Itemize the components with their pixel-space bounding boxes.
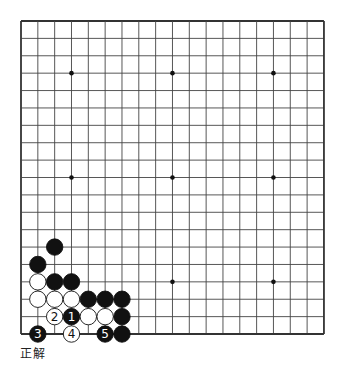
white-stone bbox=[46, 291, 62, 307]
black-stone: 5 bbox=[97, 326, 113, 342]
star-point bbox=[271, 71, 276, 76]
white-stone: 4 bbox=[63, 326, 79, 342]
black-stone bbox=[114, 291, 130, 307]
black-stone bbox=[30, 256, 46, 272]
white-stone: 2 bbox=[46, 308, 62, 324]
black-stone bbox=[80, 291, 96, 307]
black-stone bbox=[46, 274, 62, 290]
star-point bbox=[170, 175, 175, 180]
move-number: 3 bbox=[34, 327, 42, 341]
go-board: 21345 bbox=[0, 0, 344, 365]
star-point bbox=[69, 175, 74, 180]
white-stone bbox=[97, 308, 113, 324]
move-number: 5 bbox=[101, 327, 109, 341]
white-stone bbox=[63, 291, 79, 307]
star-point bbox=[271, 280, 276, 285]
caption-correct-answer: 正解 bbox=[20, 344, 46, 361]
move-number: 2 bbox=[51, 310, 59, 324]
move-number: 4 bbox=[68, 327, 76, 341]
black-stone bbox=[114, 326, 130, 342]
star-point bbox=[170, 71, 175, 76]
black-stone: 3 bbox=[30, 326, 46, 342]
black-stone: 1 bbox=[63, 308, 79, 324]
black-stone bbox=[46, 239, 62, 255]
black-stone bbox=[114, 308, 130, 324]
star-point bbox=[271, 175, 276, 180]
white-stone bbox=[80, 308, 96, 324]
black-stone bbox=[97, 291, 113, 307]
star-point bbox=[69, 71, 74, 76]
black-stone bbox=[63, 274, 79, 290]
white-stone bbox=[30, 274, 46, 290]
star-point bbox=[170, 280, 175, 285]
stones-layer: 21345 bbox=[30, 239, 131, 342]
move-number: 1 bbox=[68, 310, 76, 324]
white-stone bbox=[30, 291, 46, 307]
